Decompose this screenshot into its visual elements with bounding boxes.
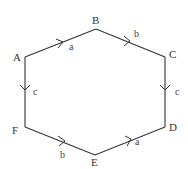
edge-label-b-c: b (134, 28, 139, 39)
arrow-icon-e-d (125, 136, 131, 146)
edge-b-c (96, 29, 165, 57)
vertex-label-e: E (91, 156, 98, 168)
arrowheads (20, 36, 170, 146)
edge-label-a-f: c (33, 86, 38, 97)
vertex-label-f: F (12, 124, 18, 136)
edge-a-b (25, 29, 96, 57)
vertex-label-c: C (169, 48, 176, 60)
vertex-label-d: D (169, 121, 177, 133)
edge-label-c-d: c (175, 86, 180, 97)
vertex-label-b: B (92, 14, 99, 26)
edge-label-a-b: a (69, 41, 74, 52)
edge-label-f-e: b (60, 149, 65, 160)
edge-label-e-d: a (135, 136, 140, 147)
edges (25, 29, 165, 155)
edge-labels: a b c c b a (33, 28, 180, 160)
hexagon-diagram: A B C D E F a b c c b a (0, 0, 188, 169)
vertex-label-a: A (13, 51, 21, 63)
